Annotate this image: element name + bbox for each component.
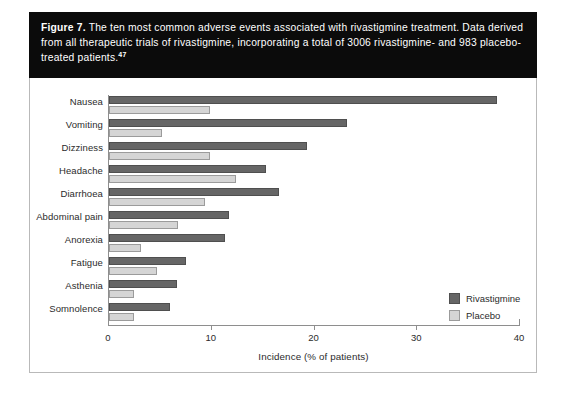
x-axis-tick-mark — [314, 326, 315, 330]
bar-placebo — [109, 129, 162, 137]
legend-item-placebo: Placebo — [449, 308, 568, 322]
category-label: Fatigue — [71, 257, 103, 268]
x-axis-tick-mark — [211, 326, 212, 330]
figure-number-label: Figure 7. — [41, 22, 86, 33]
category-label: Dizziness — [61, 142, 103, 153]
bar-placebo — [109, 290, 134, 298]
bar-placebo — [109, 198, 205, 206]
bar-rivastigmine — [109, 96, 497, 104]
legend-label-rivastigmine: Rivastigmine — [466, 293, 520, 304]
category-label: Anorexia — [65, 234, 103, 245]
bar-rivastigmine — [109, 257, 186, 265]
legend-item-rivastigmine: Rivastigmine — [449, 291, 568, 305]
legend-swatch-rivastigmine — [449, 293, 460, 304]
category-label: Asthenia — [65, 280, 103, 291]
x-axis-title: Incidence (% of patients) — [108, 351, 519, 362]
bar-placebo — [109, 267, 157, 275]
bar-placebo — [109, 221, 178, 229]
category-label: Nausea — [70, 96, 103, 107]
bar-rivastigmine — [109, 142, 307, 150]
figure-caption-body: The ten most common adverse events assoc… — [41, 22, 523, 63]
bar-rivastigmine — [109, 188, 279, 196]
x-axis-tick-mark — [108, 319, 109, 326]
x-axis-tick-label: 30 — [411, 332, 422, 343]
x-axis-tick-label: 20 — [308, 332, 319, 343]
bar-rivastigmine — [109, 165, 266, 173]
figure-caption-reference: 47 — [118, 51, 126, 58]
legend-label-placebo: Placebo — [466, 310, 500, 321]
bar-rivastigmine — [109, 280, 177, 288]
category-label: Diarrhoea — [60, 188, 103, 199]
bar-placebo — [109, 313, 134, 321]
figure-container: Figure 7. The ten most common adverse ev… — [29, 12, 537, 373]
plot-area: NauseaVomitingDizzinessHeadacheDiarrhoea… — [108, 95, 519, 325]
bar-placebo — [109, 244, 141, 252]
bar-placebo — [109, 152, 210, 160]
x-axis-tick-label: 0 — [105, 332, 110, 343]
category-label: Somnolence — [49, 303, 103, 314]
chart-panel: NauseaVomitingDizzinessHeadacheDiarrhoea… — [29, 78, 537, 373]
legend-swatch-placebo — [449, 310, 460, 321]
x-axis-tick-label: 40 — [514, 332, 525, 343]
bar-rivastigmine — [109, 303, 170, 311]
bar-placebo — [109, 106, 210, 114]
bar-placebo — [109, 175, 236, 183]
figure-caption-band: Figure 7. The ten most common adverse ev… — [29, 12, 537, 78]
bar-rivastigmine — [109, 119, 347, 127]
category-label: Headache — [59, 165, 103, 176]
category-label: Abdominal pain — [36, 211, 103, 222]
chart-legend: Rivastigmine Placebo — [449, 291, 568, 325]
category-label: Vomiting — [66, 119, 103, 130]
x-axis-tick-mark — [416, 326, 417, 330]
figure-caption-text: Figure 7. The ten most common adverse ev… — [41, 20, 525, 66]
x-axis-tick-label: 10 — [205, 332, 216, 343]
bar-rivastigmine — [109, 234, 225, 242]
bar-rivastigmine — [109, 211, 229, 219]
